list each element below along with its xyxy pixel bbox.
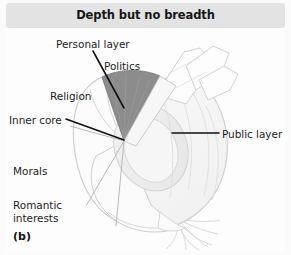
label-personal-layer: Personal layer [56,38,130,51]
label-religion: Religion [50,90,91,103]
label-public-layer: Public layer [222,128,282,141]
label-inner-core: Inner core [9,114,62,127]
label-morals: Morals [13,165,47,178]
label-romantic-interests: Romantic interests [13,199,83,224]
panel-letter: (b) [13,230,31,243]
figure-panel: Depth but no breadth [0,0,291,255]
label-politics: Politics [104,60,140,73]
